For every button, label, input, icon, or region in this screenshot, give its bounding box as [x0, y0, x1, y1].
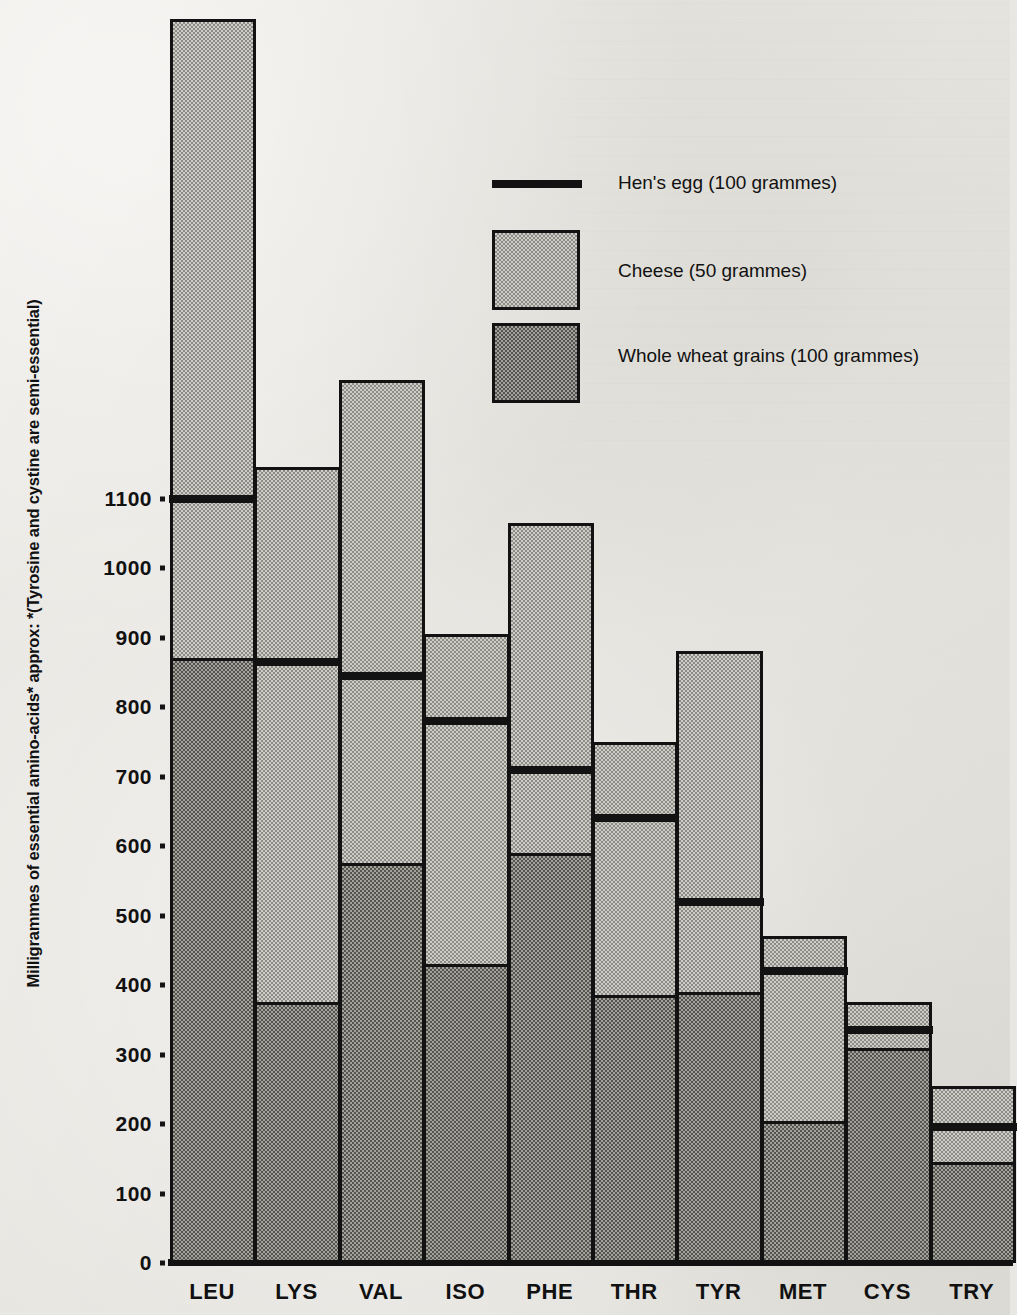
y-axis-tick-label: 200: [40, 1112, 152, 1136]
legend-swatch-wheat: [492, 323, 580, 403]
bar-wheat-phe: [508, 853, 594, 1263]
chart-legend: Hen's egg (100 grammes)Cheese (50 gramme…: [492, 168, 1007, 383]
y-axis-tick-mark: [160, 635, 165, 640]
bar-wheat-thr: [592, 995, 678, 1263]
bar-wheat-try: [930, 1162, 1016, 1263]
x-axis-label-leu: LEU: [189, 1279, 235, 1305]
legend-swatch-cheese: [492, 230, 580, 310]
y-axis-tick-mark: [160, 566, 165, 571]
y-axis-tick-label: 100: [40, 1182, 152, 1206]
y-axis-tick-label: 800: [40, 695, 152, 719]
y-axis-tick-mark: [160, 774, 165, 779]
y-axis-tick-label: 900: [40, 626, 152, 650]
y-axis-tick-label: 1000: [40, 556, 152, 580]
legend-label: Cheese (50 grammes): [618, 260, 807, 282]
y-axis-tick-mark: [160, 496, 165, 501]
egg-marker-tyr: [675, 898, 763, 906]
bar-wheat-cys: [845, 1048, 931, 1263]
y-axis-tick-label: 700: [40, 765, 152, 789]
legend-label: Whole wheat grains (100 grammes): [618, 345, 919, 367]
y-axis-tick-label: 600: [40, 834, 152, 858]
y-axis-tick-label: 1100: [40, 487, 152, 511]
egg-marker-leu: [169, 495, 257, 503]
bar-wheat-lys: [254, 1002, 340, 1263]
y-axis-tick-label: 400: [40, 973, 152, 997]
egg-marker-phe: [507, 766, 595, 774]
bar-wheat-met: [761, 1121, 847, 1263]
x-axis-label-try: TRY: [949, 1279, 994, 1305]
y-axis-tick-mark: [160, 1261, 165, 1266]
y-axis-tick-label: 300: [40, 1043, 152, 1067]
x-axis-label-lys: LYS: [275, 1279, 318, 1305]
x-axis-label-iso: ISO: [446, 1279, 486, 1305]
y-axis-tick-label: 0: [40, 1251, 152, 1275]
y-axis-tick-mark: [160, 705, 165, 710]
x-axis-label-thr: THR: [611, 1279, 658, 1305]
x-axis-label-tyr: TYR: [696, 1279, 742, 1305]
y-axis-tick-mark: [160, 1122, 165, 1127]
x-axis-label-met: MET: [779, 1279, 827, 1305]
x-axis-label-phe: PHE: [526, 1279, 573, 1305]
y-axis-tick-mark: [160, 1052, 165, 1057]
y-axis-tick-label: 500: [40, 904, 152, 928]
egg-marker-iso: [422, 717, 510, 725]
egg-marker-val: [338, 672, 426, 680]
legend-swatch-egg-line: [492, 180, 582, 188]
egg-marker-thr: [591, 814, 679, 822]
bar-wheat-iso: [423, 964, 509, 1263]
legend-label: Hen's egg (100 grammes): [618, 172, 837, 194]
y-axis-tick-mark: [160, 913, 165, 918]
x-axis-label-cys: CYS: [864, 1279, 911, 1305]
bar-wheat-leu: [170, 658, 256, 1263]
x-axis-label-val: VAL: [359, 1279, 403, 1305]
egg-marker-lys: [253, 658, 341, 666]
egg-marker-cys: [844, 1026, 932, 1034]
egg-marker-try: [929, 1123, 1017, 1131]
bar-wheat-val: [339, 863, 425, 1263]
bar-wheat-tyr: [676, 992, 762, 1263]
y-axis-tick-mark: [160, 983, 165, 988]
y-axis-tick-mark: [160, 1191, 165, 1196]
egg-marker-met: [760, 967, 848, 975]
y-axis-tick-mark: [160, 844, 165, 849]
